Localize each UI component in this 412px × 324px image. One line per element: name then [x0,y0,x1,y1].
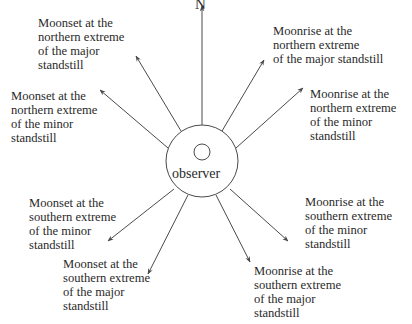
label-moonset-southern-minor: Moonset at the southern extreme of the m… [29,196,116,252]
arrow-nw-major [136,56,181,131]
arrow-nw-minor [100,90,168,148]
arrow-ne-minor [236,88,303,148]
label-moonrise-southern-major: Moonrise at the southern extreme of the … [254,264,341,320]
label-moonrise-southern-minor: Moonrise at the southern extreme of the … [305,195,392,251]
label-moonrise-northern-major: Moonrise at the northern extreme of the … [273,24,383,66]
arrow-sw-minor [108,189,174,241]
arrow-se-major [216,195,250,262]
label-moonset-northern-major: Moonset at the northern extreme of the m… [38,16,124,72]
label-moonrise-northern-minor: Moonrise at the northern extreme of the … [310,87,396,143]
arrow-se-minor [230,189,288,241]
observer-circle [166,125,238,197]
north-label: N [195,0,206,13]
label-moonset-northern-minor: Moonset at the northern extreme of the m… [11,89,97,145]
arrow-sw-major [148,195,188,274]
arrow-ne-major [222,60,264,131]
observer-label: observer [172,166,220,182]
label-moonset-southern-major: Moonset at the southern extreme of the m… [63,257,150,313]
